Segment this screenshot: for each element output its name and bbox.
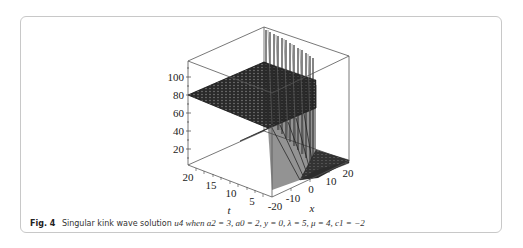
figure-number: Fig. 4 [30, 219, 55, 228]
t-tick-5: 5 [249, 195, 255, 207]
figure-caption: Fig. 4 Singular kink wave solution u4 wh… [30, 218, 365, 228]
x-tick-10: 10 [326, 175, 338, 187]
t-tick-15: 15 [206, 179, 218, 191]
z-tick-60: 60 [173, 107, 185, 119]
z-tick-20: 20 [173, 143, 185, 155]
caption-math: u4 when a2 = 3, a0 = 2, y = 0, λ = 5, μ … [174, 218, 364, 228]
z-tick-80: 80 [173, 89, 185, 101]
caption-text: Singular kink wave solution [62, 219, 172, 228]
z-tick-100: 100 [168, 71, 185, 83]
x-tick-0: 0 [308, 183, 314, 195]
x-tick-neg20: -20 [268, 200, 283, 212]
surface-plot-3d: 100 80 60 40 20 20 15 10 5 t -20 -10 0 1… [0, 0, 523, 248]
x-tick-neg10: -10 [286, 192, 301, 204]
z-axis [186, 68, 191, 158]
z-tick-40: 40 [173, 125, 185, 137]
t-tick-10: 10 [226, 187, 238, 199]
x-tick-20: 20 [343, 167, 355, 179]
x-axis-label: x [309, 202, 315, 214]
t-axis-label: t [227, 204, 231, 216]
t-tick-20: 20 [183, 171, 195, 183]
